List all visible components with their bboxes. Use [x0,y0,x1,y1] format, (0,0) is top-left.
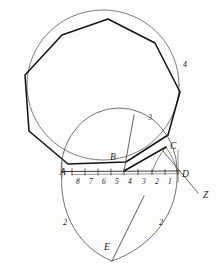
circumscribed-circle [27,10,179,160]
inscribed-nonagon [25,19,180,164]
ruler-tick-label-6: 6 [102,178,106,186]
region-label-2-right: 2 [159,219,163,227]
region-label-3: 3 [148,114,152,122]
ruler-tick-label-4: 4 [128,178,132,186]
ruler-tick-label-5: 5 [115,178,119,186]
figure-drawing-canvas [0,0,218,272]
ruler-tick-label-7: 7 [89,178,93,186]
ray-c-to-z [163,151,198,193]
point-label-E: E [104,243,110,253]
point-label-C: C [170,142,176,152]
region-label-4: 4 [183,61,187,69]
baseline-ruler-lower-rule [72,174,179,175]
region-label-2-left: 2 [63,219,67,227]
upper-semicircle-arc [61,108,177,170]
point-label-A: A [60,168,66,178]
ruler-tick-label-2: 2 [155,178,159,186]
segment-b-to-arc-top [124,115,134,171]
ruler-tick-label-8: 8 [76,178,80,186]
point-label-D: D [182,170,189,180]
ruler-tick-label-1: 1 [168,178,172,186]
point-label-Z: Z [203,191,208,201]
baseline-ruler [61,171,180,172]
ray-apex-to-tick3 [112,196,144,261]
ruler-tick-label-3: 3 [142,178,146,186]
point-label-B: B [110,153,116,163]
geometry-figure: A B C D E Z 3 4 2 2 8 7 6 5 4 3 2 1 [0,0,218,272]
